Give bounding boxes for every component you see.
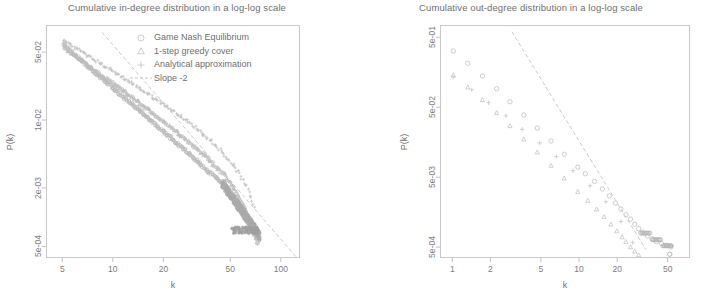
- y-axis-title: P(k): [399, 133, 409, 150]
- y-axis-tick-label: 5e-02: [33, 41, 43, 63]
- x-axis-tick-label: 2: [488, 264, 493, 274]
- legend-item: Analytical approximation: [128, 58, 252, 72]
- chart-title-in-degree: Cumulative in-degree distribution in a l…: [0, 2, 354, 13]
- legend-label: 1-step greedy cover: [154, 45, 234, 59]
- plot-area-out-degree: [440, 25, 690, 258]
- chart-panel-out-degree: Cumulative out-degree distribution in a …: [354, 0, 708, 300]
- x-axis-title: k: [563, 280, 568, 290]
- legend-in-degree: Game Nash Equilibrium 1-step greedy cove…: [128, 31, 252, 85]
- legend-label: Slope -2: [154, 72, 188, 86]
- x-axis-tick-label: 5: [539, 264, 544, 274]
- x-axis-tick-label: 1: [450, 264, 455, 274]
- y-axis-tick-label: 2e-03: [33, 177, 43, 199]
- x-axis-tick-label: 10: [574, 264, 583, 274]
- y-axis-tick-label: 5e-01: [427, 26, 437, 48]
- x-axis-title: k: [171, 280, 176, 290]
- y-axis-tick-label: 5e-03: [427, 166, 437, 188]
- y-axis-tick-label: 5e-02: [427, 96, 437, 118]
- circle-marker-icon: [128, 31, 154, 45]
- x-axis-tick-label: 10: [108, 264, 117, 274]
- chart-panel-in-degree: Cumulative in-degree distribution in a l…: [0, 0, 354, 300]
- legend-label: Analytical approximation: [154, 58, 252, 72]
- y-axis-title: P(k): [5, 133, 15, 150]
- figure-row: Cumulative in-degree distribution in a l…: [0, 0, 708, 300]
- x-axis-tick-label: 50: [663, 264, 672, 274]
- x-axis-tick-label: 20: [612, 264, 621, 274]
- legend-item: 1-step greedy cover: [128, 45, 252, 59]
- x-axis-tick-label: 100: [274, 264, 288, 274]
- legend-item: Slope -2: [128, 72, 252, 86]
- plot-canvas-out-degree: [441, 26, 690, 258]
- x-axis-tick-label: 5: [60, 264, 65, 274]
- chart-title-out-degree: Cumulative out-degree distribution in a …: [354, 2, 708, 13]
- y-axis-tick-label: 5e-04: [33, 236, 43, 258]
- y-axis-tick-label: 1e-02: [33, 109, 43, 131]
- plus-marker-icon: [128, 58, 154, 72]
- triangle-marker-icon: [128, 45, 154, 59]
- legend-item: Game Nash Equilibrium: [128, 31, 252, 45]
- dashed-line-marker-icon: [128, 72, 154, 86]
- x-axis-tick-label: 50: [226, 264, 235, 274]
- x-axis-tick-label: 20: [159, 264, 168, 274]
- y-axis-tick-label: 5e-04: [427, 236, 437, 258]
- legend-label: Game Nash Equilibrium: [154, 31, 249, 45]
